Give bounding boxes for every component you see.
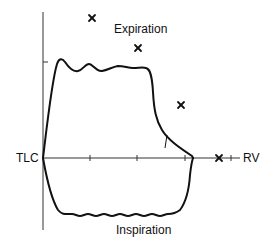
- marker-2: [135, 45, 141, 51]
- expiration-label: Expiration: [114, 23, 167, 35]
- inspiration-curve: [43, 158, 193, 216]
- flow-volume-diagram: [0, 0, 271, 248]
- expiration-curve: [43, 59, 193, 158]
- marker-3: [178, 102, 184, 108]
- marker-1: [89, 15, 95, 21]
- data-markers: [89, 15, 222, 161]
- tlc-label: TLC: [16, 152, 39, 164]
- inspiration-label: Inspiration: [116, 224, 171, 236]
- rv-label: RV: [243, 152, 259, 164]
